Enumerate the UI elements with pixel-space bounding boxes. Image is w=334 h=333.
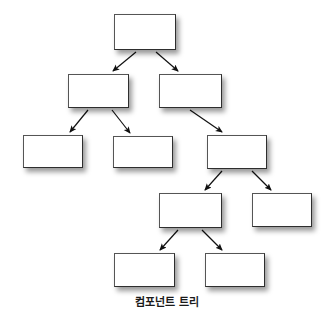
tree-node-n8[interactable] [114, 253, 175, 287]
tree-edge-n2-to-n5 [190, 110, 222, 132]
tree-node-n7[interactable] [252, 193, 312, 227]
tree-edge-n1-to-n3 [70, 110, 88, 132]
tree-node-n1[interactable] [68, 74, 129, 108]
tree-node-n5[interactable] [207, 135, 267, 169]
tree-edge-n5-to-n6 [205, 171, 222, 190]
diagram-caption: 컴포넌트 트리 [0, 293, 334, 309]
tree-node-n4[interactable] [113, 136, 173, 168]
tree-node-n9[interactable] [205, 253, 265, 287]
tree-edge-n0-to-n2 [156, 52, 178, 71]
tree-edge-n5-to-n7 [252, 171, 271, 190]
component-tree-diagram: 컴포넌트 트리 [0, 0, 334, 333]
tree-node-n0[interactable] [114, 14, 176, 50]
tree-edge-n6-to-n8 [160, 230, 178, 250]
tree-edge-n0-to-n1 [113, 52, 136, 71]
tree-node-n2[interactable] [159, 74, 222, 108]
tree-edge-n1-to-n4 [112, 110, 130, 133]
tree-node-n6[interactable] [159, 193, 222, 228]
tree-node-n3[interactable] [23, 135, 83, 168]
tree-edge-n6-to-n9 [202, 230, 222, 250]
